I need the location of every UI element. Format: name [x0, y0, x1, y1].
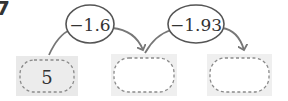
problem-number: 7 — [0, 0, 10, 20]
problem-number-text: 7 — [0, 0, 10, 20]
operation-label-1: −1.6 — [69, 15, 110, 35]
value-box-1: 5 — [16, 56, 78, 96]
number-chain-diagram: 7 5 −1.6 −1.93 — [0, 0, 288, 101]
operation-label-2: −1.93 — [170, 15, 222, 35]
answer-box-2[interactable] — [207, 54, 272, 96]
answer-box-1[interactable] — [111, 54, 177, 96]
start-value: 5 — [41, 67, 52, 88]
operation-oval-2: −1.93 — [168, 5, 224, 43]
operation-oval-1: −1.6 — [66, 5, 114, 43]
